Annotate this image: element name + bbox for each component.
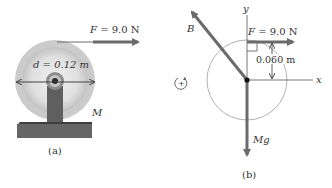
- positive-rotation-icon: +: [175, 77, 187, 89]
- axle-point: [244, 77, 249, 82]
- force-f-label-b: F = 9.0 N: [247, 26, 298, 37]
- bearing-force-label: B: [186, 23, 194, 34]
- stand-post: [47, 86, 63, 124]
- bearing-force-arrow: [192, 12, 247, 80]
- diameter-label: d = 0.12 m: [33, 59, 89, 70]
- x-axis-label: x: [316, 74, 322, 85]
- weight-label: Mg: [252, 134, 270, 145]
- pulley-free-body-diagram: d = 0.12 m F = 9.0 N M (a) + y x F = 9.0…: [0, 0, 332, 188]
- caption-a: (a): [48, 145, 62, 156]
- caption-b: (b): [242, 169, 256, 180]
- panel-a: d = 0.12 m F = 9.0 N M (a): [15, 24, 140, 156]
- force-f-label: F = 9.0 N: [89, 24, 140, 35]
- y-axis-label: y: [242, 3, 249, 14]
- mass-label: M: [91, 107, 103, 118]
- distance-label: 0.060 m: [256, 54, 295, 65]
- stand-base: [17, 124, 92, 138]
- svg-text:+: +: [178, 79, 185, 88]
- axle: [52, 78, 58, 84]
- panel-b: + y x F = 9.0 N 0.060 m B Mg (b): [175, 3, 322, 180]
